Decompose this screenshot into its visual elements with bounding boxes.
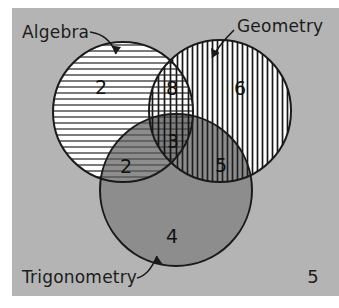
region-count-trigonometry-only: 4 <box>166 225 178 247</box>
set-label-geometry: Geometry <box>237 16 323 36</box>
region-count-geometry-trigonometry: 5 <box>215 154 227 176</box>
region-count-outside-all: 5 <box>307 266 318 287</box>
set-label-algebra: Algebra <box>22 22 89 42</box>
region-count-algebra-trigonometry: 2 <box>120 155 132 177</box>
region-count-algebra-geometry: 8 <box>166 77 178 99</box>
venn-diagram-canvas: 2 8 6 2 3 5 4 5 Algebra Geometry Trigono… <box>0 0 339 308</box>
region-count-all-three: 3 <box>167 130 179 152</box>
region-count-algebra-only: 2 <box>95 76 107 98</box>
venn-diagram-figure: 2 8 6 2 3 5 4 5 Algebra Geometry Trigono… <box>0 0 339 308</box>
set-label-trigonometry: Trigonometry <box>21 267 137 287</box>
region-count-geometry-only: 6 <box>234 77 246 99</box>
